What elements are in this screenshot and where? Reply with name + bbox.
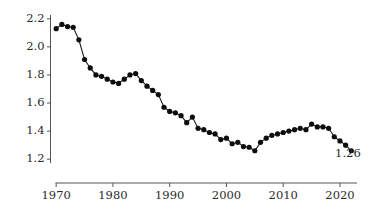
data-point-marker xyxy=(93,72,98,77)
data-point-marker xyxy=(332,134,337,139)
x-axis: 197019801990200020102020 xyxy=(42,183,357,202)
data-point-marker xyxy=(127,72,132,77)
data-point-marker xyxy=(156,92,161,97)
data-point-marker xyxy=(224,136,229,141)
data-point-marker xyxy=(292,127,297,132)
data-point-marker xyxy=(133,71,138,76)
data-point-marker xyxy=(207,130,212,135)
data-point-marker xyxy=(190,114,195,119)
data-point-marker xyxy=(65,24,70,29)
x-tick-label: 2010 xyxy=(269,188,298,202)
data-point-marker xyxy=(173,110,178,115)
data-point-marker xyxy=(161,105,166,110)
y-tick-label: 1.8 xyxy=(26,67,44,81)
data-point-marker xyxy=(241,144,246,149)
data-point-marker xyxy=(258,140,263,145)
data-point-marker xyxy=(88,65,93,70)
data-point-marker xyxy=(309,122,314,127)
data-point-marker xyxy=(320,124,325,129)
data-point-marker xyxy=(144,84,149,89)
data-point-marker xyxy=(337,138,342,143)
data-point-marker xyxy=(247,145,252,150)
data-point-marker xyxy=(167,109,172,114)
data-point-marker xyxy=(218,137,223,142)
data-point-marker xyxy=(201,127,206,132)
x-tick-label: 1970 xyxy=(42,188,71,202)
data-point-marker xyxy=(99,74,104,79)
x-tick-label: 1980 xyxy=(98,188,127,202)
data-point-marker xyxy=(275,131,280,136)
data-point-marker xyxy=(139,78,144,83)
x-tick-label: 1990 xyxy=(155,188,184,202)
data-point-marker xyxy=(178,113,183,118)
data-point-marker xyxy=(59,22,64,27)
line-chart: 2.22.01.81.61.41.2 197019801990200020102… xyxy=(0,0,371,219)
data-point-marker xyxy=(195,126,200,131)
data-point-marker xyxy=(269,133,274,138)
y-tick-label: 1.2 xyxy=(26,151,44,165)
data-point-marker xyxy=(116,81,121,86)
data-point-marker xyxy=(110,79,115,84)
data-point-marker xyxy=(105,77,110,82)
data-point-marker xyxy=(286,129,291,134)
data-point-marker xyxy=(298,126,303,131)
y-tick-label: 2.2 xyxy=(26,11,44,25)
y-tick-label: 2.0 xyxy=(26,39,44,53)
data-point-marker xyxy=(264,136,269,141)
data-point-marker xyxy=(315,124,320,129)
data-point-marker xyxy=(54,26,59,31)
annotation-layer: 1.26 xyxy=(335,146,361,160)
data-point-marker xyxy=(76,37,81,42)
data-series xyxy=(54,22,354,154)
y-tick-label: 1.6 xyxy=(26,95,44,109)
y-axis: 2.22.01.81.61.41.2 xyxy=(26,11,50,165)
x-tick-label: 2020 xyxy=(325,188,354,202)
data-point-marker xyxy=(326,126,331,131)
data-point-marker xyxy=(184,120,189,125)
data-point-marker xyxy=(82,57,87,62)
data-point-marker xyxy=(71,25,76,30)
data-point-marker xyxy=(150,88,155,93)
value-annotation: 1.26 xyxy=(335,146,361,160)
y-tick-label: 1.4 xyxy=(26,123,44,137)
chart-container: 2.22.01.81.61.41.2 197019801990200020102… xyxy=(0,0,371,219)
data-point-marker xyxy=(281,130,286,135)
data-point-marker xyxy=(213,131,218,136)
data-point-marker xyxy=(252,148,257,153)
x-tick-label: 2000 xyxy=(212,188,241,202)
data-point-marker xyxy=(122,77,127,82)
data-point-marker xyxy=(303,127,308,132)
data-point-marker xyxy=(235,140,240,145)
data-point-marker xyxy=(230,141,235,146)
